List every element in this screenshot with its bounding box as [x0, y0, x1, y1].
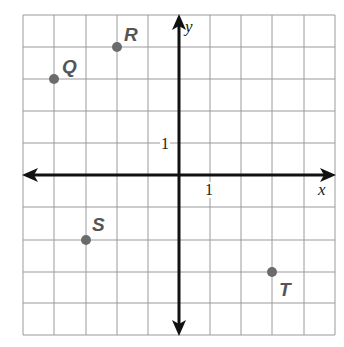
y-tick-label: 1 [160, 136, 170, 152]
coordinate-plane [0, 0, 344, 347]
point-label-t: T [279, 279, 291, 301]
point-label-r: R [124, 24, 138, 46]
point-label-s: S [92, 214, 105, 236]
point-s [81, 235, 91, 245]
point-label-q: Q [62, 56, 77, 78]
point-q [49, 74, 59, 84]
x-axis-label: x [318, 180, 326, 200]
y-axis-label: y [185, 17, 193, 37]
point-r [112, 42, 122, 52]
x-tick-label: 1 [204, 182, 214, 198]
data-points [49, 42, 277, 277]
point-t [267, 267, 277, 277]
